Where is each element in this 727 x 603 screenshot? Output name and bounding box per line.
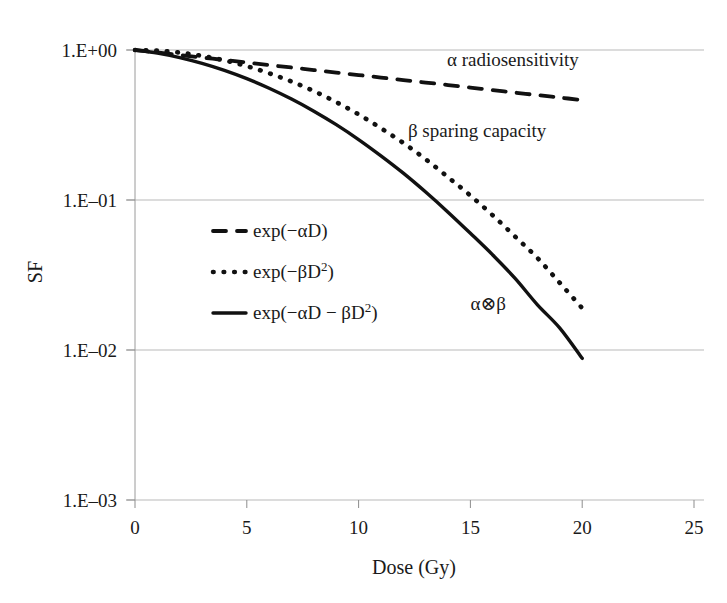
annotation-text: β sparing capacity xyxy=(408,120,547,141)
y-tick-label: 1.E–02 xyxy=(63,340,117,361)
annotation-text: α⊗β xyxy=(471,293,507,314)
chart-svg: 1.E+001.E–011.E–021.E–03 0510152025 α ra… xyxy=(0,0,727,603)
legend-label: exp(−αD) xyxy=(253,220,327,242)
x-tick-label: 0 xyxy=(130,517,140,538)
y-tick-label: 1.E–01 xyxy=(63,190,117,211)
x-tick-label: 20 xyxy=(573,517,592,538)
y-axis-title: SF xyxy=(24,261,46,283)
x-tick-label: 10 xyxy=(349,517,368,538)
legend-label: exp(−αD − βD2) xyxy=(253,300,378,325)
y-tick-label: 1.E+00 xyxy=(61,40,117,61)
x-tick-label: 5 xyxy=(242,517,252,538)
x-tick-label: 15 xyxy=(461,517,480,538)
x-tick-label: 25 xyxy=(685,517,704,538)
y-tick-label: 1.E–03 xyxy=(63,490,117,511)
x-axis-title: Dose (Gy) xyxy=(372,556,456,579)
chart-figure: 1.E+001.E–011.E–021.E–03 0510152025 α ra… xyxy=(0,0,727,603)
annotation-text: α radiosensitivity xyxy=(447,49,579,70)
